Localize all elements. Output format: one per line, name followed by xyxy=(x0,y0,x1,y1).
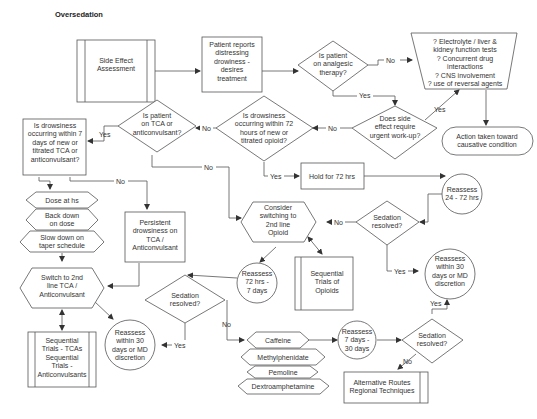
node-analgesic-question: Is patienton analgesictherapy? xyxy=(298,41,368,91)
node-reassess-30days-right: Reassesswithin 30days or MDdiscretion xyxy=(425,249,475,299)
node-slow-down-taper: Slow down ontaper schedule xyxy=(20,231,104,252)
node-sedation-resolved-2: Sedationresolved? xyxy=(145,275,225,323)
node-label: Methylphenidate xyxy=(257,354,308,362)
node-patient-reports: Patient reportsdistressingdrowiness -des… xyxy=(202,37,262,92)
node-back-down-dose: Back downon dose xyxy=(26,209,98,230)
node-label: Pemoline xyxy=(268,369,297,376)
edge-label-yes: Yes xyxy=(359,92,371,99)
node-label: Slow down ontaper schedule xyxy=(39,234,85,250)
node-drowsy-7d-question: Is drowsinessoccurring within 7days of n… xyxy=(23,119,86,175)
node-urgent-workup-question: Does sideeffect requireurgent work-up? xyxy=(352,106,437,159)
node-label: Dose at hs xyxy=(45,197,79,204)
node-label: Sedationresolved? xyxy=(372,214,402,229)
node-hold-72hrs: Hold for 72 hrs xyxy=(301,163,364,189)
node-reassess-72hrs-7days: Reassess72 hrs -7 days xyxy=(237,263,277,303)
node-switch-2nd-line-tca: Switch to 2ndline TCA /Anticonvulsant xyxy=(20,268,104,308)
node-label: Reassesswithin 30days or MDdiscretion xyxy=(112,329,148,361)
node-sedation-resolved-3: Sedationresolved? xyxy=(402,319,463,363)
edge-label-no: No xyxy=(116,178,125,185)
edge-label-yes: Yes xyxy=(430,300,442,307)
node-label: Dextroamphetamine xyxy=(251,383,314,391)
edge-label-yes: Yes xyxy=(99,131,111,138)
nodes: Side EffectAssessment Patient reportsdis… xyxy=(20,33,533,403)
node-sedation-resolved-1: Sedationresolved? xyxy=(356,201,419,245)
node-label: Sedationresolved? xyxy=(170,292,200,307)
edge-label-yes: Yes xyxy=(270,173,282,180)
node-label: Reassess24 - 72 hrs xyxy=(445,186,479,201)
edge-label-no: No xyxy=(403,358,412,365)
node-action-taken: Action taken towardcausative condition xyxy=(442,127,533,155)
node-label: Alternative RoutesRegional Techniques xyxy=(350,379,415,395)
node-reassess-24-72hrs: Reassess24 - 72 hrs xyxy=(442,174,482,214)
edge-label-no: No xyxy=(328,125,337,132)
node-consider-switch-opioid: Considerswitching to2nd lineOpioid xyxy=(241,202,316,242)
node-sequential-opioids: SequentialTrials ofOpioids xyxy=(295,257,353,310)
node-lab-tests: ? Electrolyte / liver &kidney function t… xyxy=(411,33,517,89)
node-label: Reassesswithin 30days or MDdiscretion xyxy=(432,255,468,287)
node-alternative-routes: Alternative RoutesRegional Techniques xyxy=(344,372,428,403)
node-drowsy-72h-question: Is drowsinessoccurring within 72hours of… xyxy=(216,96,313,161)
node-caffeine: Caffeine xyxy=(247,332,309,348)
node-label: Is drowsinessoccurring within 72hours of… xyxy=(235,112,293,145)
node-label: Back downon dose xyxy=(45,212,79,227)
node-label: Is drowsinessoccurring within 7days of n… xyxy=(28,122,83,163)
node-sequential-tca: SequentialTrials - TCAsSequentialTrials … xyxy=(28,332,96,387)
node-label: Reassess7 days -30 days xyxy=(342,328,373,353)
node-tca-question: Is patienton TCA oranticonvulsant? xyxy=(118,100,196,152)
node-label: Action taken towardcausative condition xyxy=(456,133,518,148)
edge-label-no: No xyxy=(386,57,395,64)
node-methylphenidate: Methylphenidate xyxy=(241,349,325,365)
node-reassess-7-30days: Reassess7 days -30 days xyxy=(338,321,376,359)
edge-label-no: No xyxy=(204,164,213,171)
edge-label-no: No xyxy=(222,321,231,328)
node-label: Sedationresolved? xyxy=(417,332,447,347)
edge-label-no: No xyxy=(334,219,343,226)
edge-label-yes: Yes xyxy=(394,268,406,275)
edge-label-yes: Yes xyxy=(434,106,446,113)
node-label: Hold for 72 hrs xyxy=(309,173,355,180)
node-persistent-drowsiness: Persistentdrowsiness onTCA /Anticonvulsa… xyxy=(125,212,185,262)
node-side-effect-assessment: Side EffectAssessment xyxy=(77,40,155,102)
node-label: Side EffectAssessment xyxy=(97,57,135,72)
flowchart: No Yes Yes No No Yes Yes No No Yes No Ye… xyxy=(0,0,537,419)
node-pemoline: Pemoline xyxy=(247,366,318,378)
node-label: Caffeine xyxy=(265,337,291,344)
edge-label-yes: Yes xyxy=(174,342,186,349)
node-dextroamphetamine: Dextroamphetamine xyxy=(238,379,329,394)
edge-label-no: No xyxy=(202,125,211,132)
node-dose-at-hs: Dose at hs xyxy=(26,192,98,208)
node-reassess-30days-left: Reassesswithin 30days or MDdiscretion xyxy=(105,320,155,370)
